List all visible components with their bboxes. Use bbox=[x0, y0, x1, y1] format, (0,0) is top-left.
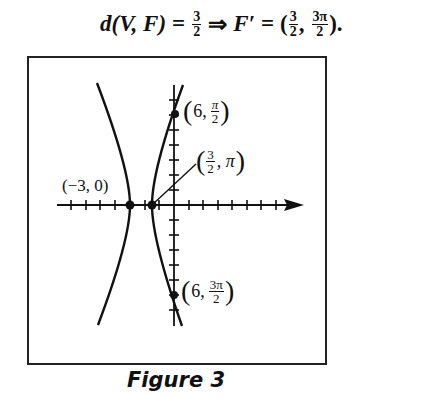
label-neg3-0: (−3, 0) bbox=[62, 176, 108, 196]
hyperbola-plot bbox=[0, 0, 421, 398]
figure-caption: Figure 3 bbox=[127, 368, 225, 392]
x-axis-arrow-icon bbox=[284, 199, 304, 211]
label-3-halves-pi: ( 3 2 , π ) bbox=[196, 147, 245, 175]
point-neg3-0 bbox=[126, 201, 135, 210]
point-6-pi-over-2 bbox=[171, 110, 179, 118]
point-6-3pi-over-2 bbox=[170, 291, 178, 299]
point-3-halves-pi bbox=[148, 201, 157, 210]
label-6-3pi-over-2: ( 6, 3π 2 ) bbox=[181, 277, 234, 305]
label-6-pi-over-2: ( 6, π 2 ) bbox=[183, 97, 230, 125]
